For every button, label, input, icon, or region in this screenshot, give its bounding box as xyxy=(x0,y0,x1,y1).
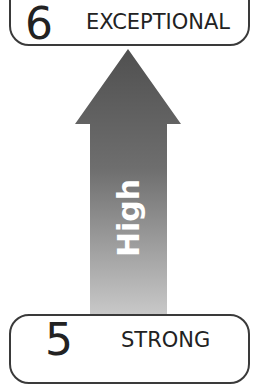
level-label: STRONG xyxy=(121,328,210,352)
level-number: 5 xyxy=(45,314,73,365)
level-box-strong: 5 STRONG xyxy=(9,314,250,384)
arrow-label: High xyxy=(111,179,146,257)
